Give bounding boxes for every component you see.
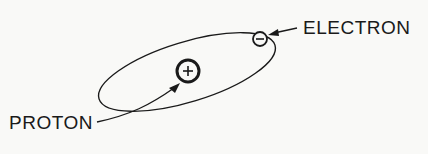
proton-icon xyxy=(177,60,199,82)
hydrogen-atom-diagram: ELECTRON PROTON xyxy=(0,0,428,154)
proton-pointer-arrow xyxy=(97,83,180,122)
electron-pointer-arrow xyxy=(268,28,297,36)
electron-label: ELECTRON xyxy=(303,17,410,39)
electron-icon xyxy=(253,32,267,46)
proton-label: PROTON xyxy=(9,112,93,134)
